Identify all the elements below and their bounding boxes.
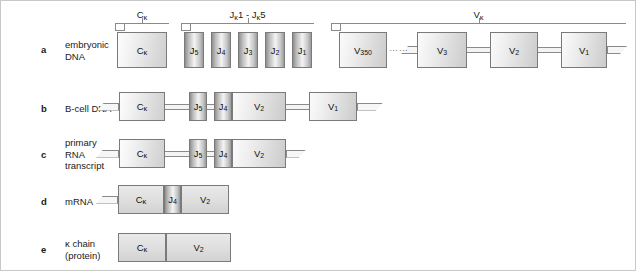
connector-c-j5 [165,104,189,110]
segment-v2: V2 [166,233,231,262]
segment-v350: V350 [339,32,387,68]
segment-c-kappa: Cκ [117,32,167,68]
bracket-ckappa-label: Cκ [115,9,169,20]
tail-right-b [357,103,383,111]
connector-v3-v2 [467,47,490,53]
row-letter-d: d [41,196,47,207]
row-label-e: κ chain (protein) [65,238,100,261]
row-letter-e: e [41,244,46,255]
connector-v2-v1 [538,47,561,53]
segment-j3: J3 [238,32,258,68]
segment-j4: J4 [214,92,232,121]
segment-c-kappa: Cκ [118,233,166,262]
segment-j5: J5 [184,32,204,68]
segment-j4: J4 [214,139,232,168]
segment-j4: J4 [164,185,181,214]
segment-v1: V1 [561,32,607,68]
segment-j5: J5 [189,92,207,121]
row-letter-a: a [41,44,46,55]
segment-v3: V3 [417,32,467,68]
tail-left-d [96,196,118,204]
bracket-vkappa [331,23,626,29]
segment-j2: J2 [265,32,285,68]
ellipsis-v-region: …… [389,43,409,53]
connector-c-j5 [165,151,189,157]
kappa-gene-rearrangement-diagram: CκJκ1 - Jκ5Vκaembryonic DNA……CκJ5J4J3J2J… [0,0,636,271]
bracket-jkappa [181,23,314,29]
connector-j5-j4 [207,104,214,110]
connector-j5-j4 [207,151,214,157]
segment-v2: V2 [181,185,229,214]
bracket-ckappa [115,23,169,29]
row-label-c: primary RNA transcript [65,137,104,172]
row-label-a: embryonic DNA [65,39,109,62]
segment-v2: V2 [490,32,538,68]
row-letter-c: c [41,149,46,160]
segment-v2: V2 [232,139,286,168]
segment-c-kappa: Cκ [118,185,164,214]
connector-v2-v1 [286,104,309,110]
row-letter-b: b [41,103,47,114]
tail-right-c [286,150,306,158]
segment-j4: J4 [211,32,231,68]
tail-right-a [607,46,627,54]
segment-c-kappa: Cκ [119,139,165,168]
row-label-d: mRNA [65,196,93,208]
segment-j5: J5 [189,139,207,168]
segment-v2: V2 [232,92,286,121]
bracket-jkappa-label: Jκ1 - Jκ5 [181,9,314,20]
bracket-vkappa-label: Vκ [331,9,626,20]
segment-c-kappa: Cκ [119,92,165,121]
segment-v1: V1 [309,92,357,121]
segment-j1: J1 [292,32,312,68]
